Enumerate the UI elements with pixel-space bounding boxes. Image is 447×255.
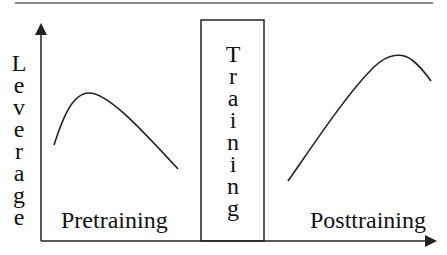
y-axis-letter: a xyxy=(14,162,25,184)
pretraining-curve xyxy=(54,93,178,169)
pretraining-label: Pretraining xyxy=(61,206,168,234)
y-axis-label: L e v e r a g e xyxy=(8,52,30,228)
y-axis-letter: g xyxy=(13,184,25,206)
training-letter: i xyxy=(230,153,237,175)
y-axis-letter: r xyxy=(15,140,23,162)
training-letter: n xyxy=(227,131,239,153)
training-letter: g xyxy=(227,197,239,219)
training-label: T r a i n i n g xyxy=(202,43,264,219)
training-letter: i xyxy=(230,109,237,131)
y-axis-letter: v xyxy=(13,96,25,118)
training-letter: n xyxy=(227,175,239,197)
y-axis-letter: e xyxy=(14,118,25,140)
y-axis-letter: L xyxy=(12,52,27,74)
y-axis-letter: e xyxy=(14,74,25,96)
training-letter: a xyxy=(228,87,239,109)
training-letter: T xyxy=(226,43,241,65)
posttraining-label: Posttraining xyxy=(310,206,426,234)
training-letter: r xyxy=(229,65,237,87)
posttraining-curve xyxy=(288,55,431,181)
y-axis-letter: e xyxy=(14,206,25,228)
